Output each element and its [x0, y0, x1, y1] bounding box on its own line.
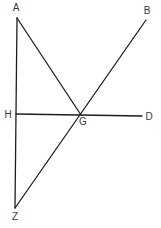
label-g: G — [79, 116, 87, 127]
label-d: D — [145, 111, 152, 122]
segment-az — [15, 18, 17, 208]
label-h: H — [4, 109, 11, 120]
geometry-diagram: A B H G D Z — [0, 0, 161, 228]
segment-ag — [17, 18, 81, 115]
label-a: A — [13, 2, 20, 13]
label-b: B — [144, 5, 151, 16]
label-z: Z — [12, 211, 18, 222]
